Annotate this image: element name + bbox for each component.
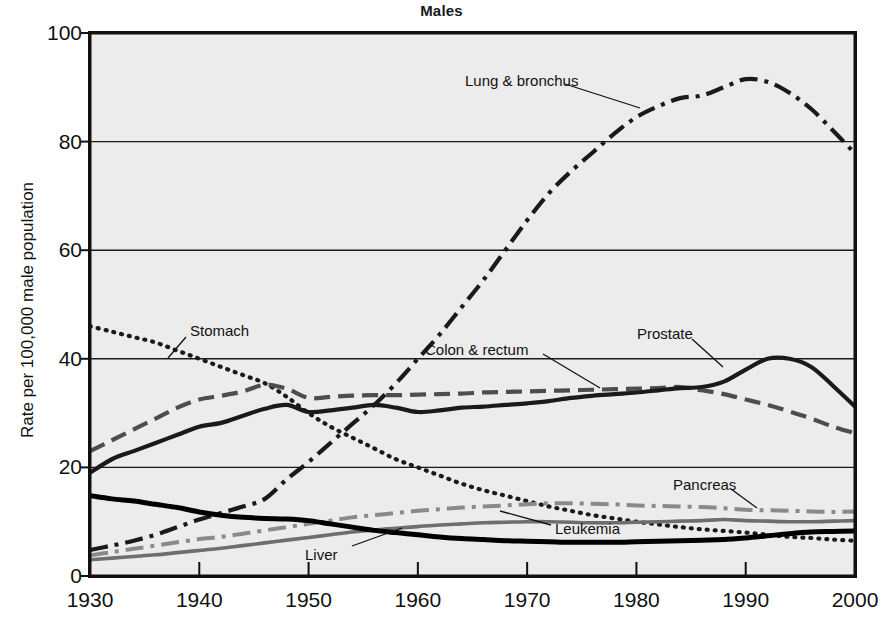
series-label-leukemia: Leukemia	[555, 520, 620, 537]
series-label-prostate: Prostate	[637, 325, 693, 342]
series-label-lung: Lung & bronchus	[465, 72, 578, 89]
chart-root: Males 020406080100 193019401950196019701…	[0, 0, 883, 632]
series-label-stomach: Stomach	[190, 322, 249, 339]
series-line-colon-rectum	[90, 385, 855, 451]
plot-frame-border	[90, 33, 855, 576]
series-group	[90, 79, 855, 560]
leader-line-prostate	[692, 339, 723, 367]
series-label-colon: Colon & rectum	[425, 341, 528, 358]
series-label-liver: Liver	[305, 546, 338, 563]
series-label-pancreas: Pancreas	[673, 476, 736, 493]
series-line-lung-bronchus	[90, 79, 855, 550]
series-line-prostate	[90, 358, 855, 473]
series-canvas	[0, 0, 883, 632]
